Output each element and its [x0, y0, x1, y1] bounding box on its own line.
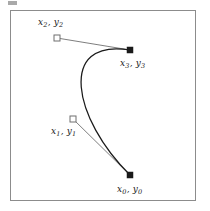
- control-point-p1-marker[interactable]: [70, 116, 76, 122]
- anchor-point-p3-label: x3, y3: [120, 58, 145, 68]
- anchor-point-p0-marker[interactable]: [127, 172, 133, 178]
- p2-sub-y: 2: [59, 21, 63, 29]
- p1-label-separator: ,: [61, 126, 67, 136]
- p1-sub-y: 1: [72, 130, 76, 138]
- anchor-point-p3-marker[interactable]: [127, 47, 133, 53]
- control-point-p2-marker[interactable]: [54, 35, 60, 41]
- p3-label-y: y3: [136, 58, 146, 68]
- p1-sub-x: 1: [56, 130, 60, 138]
- p2-label-separator: ,: [48, 17, 54, 27]
- p3-label-separator: ,: [130, 58, 136, 68]
- p1-label-y: y1: [67, 126, 77, 136]
- p1-label-x: x1: [51, 126, 61, 136]
- bezier-figure: x2, y2 x3, y3 x1, y1 x0, y0: [0, 0, 210, 211]
- p0-sub-x: 0: [122, 188, 126, 196]
- p2-label-y: y2: [54, 17, 64, 27]
- p3-sub-y: 3: [141, 62, 145, 70]
- p0-sub-y: 0: [138, 188, 142, 196]
- p3-sub-x: 3: [125, 62, 129, 70]
- bezier-curve-canvas: [0, 0, 210, 211]
- p2-sub-x: 2: [43, 21, 47, 29]
- p3-label-x: x3: [120, 58, 130, 68]
- tangent-line-p2-p3: [57, 38, 130, 50]
- control-point-p1-label: x1, y1: [51, 126, 76, 136]
- p0-label-x: x0: [117, 184, 127, 194]
- p0-label-y: y0: [133, 184, 143, 194]
- p2-label-x: x2: [38, 17, 48, 27]
- p0-label-separator: ,: [127, 184, 133, 194]
- control-point-p2-label: x2, y2: [38, 17, 63, 27]
- anchor-point-p0-label: x0, y0: [117, 184, 142, 194]
